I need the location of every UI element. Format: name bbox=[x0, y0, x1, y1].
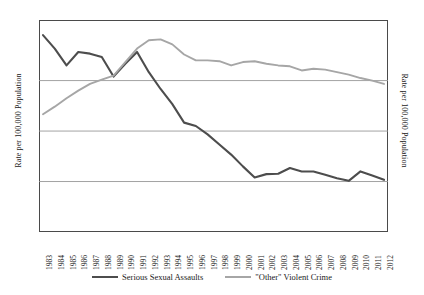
x-tick-label: 1983 bbox=[46, 255, 54, 270]
x-tick-label: 1985 bbox=[70, 255, 78, 270]
x-tick-label: 1995 bbox=[187, 255, 195, 270]
x-tick-label: 1993 bbox=[164, 255, 172, 270]
x-tick-label: 1992 bbox=[152, 255, 160, 270]
x-tick-label: 2007 bbox=[328, 255, 336, 270]
x-tick-label: 1989 bbox=[117, 255, 125, 270]
x-tick-label: 2001 bbox=[258, 255, 266, 270]
series-line-0 bbox=[43, 35, 384, 181]
x-tick-label: 1986 bbox=[81, 255, 89, 270]
x-tick-label: 2000 bbox=[246, 255, 254, 270]
x-tick-label: 1991 bbox=[140, 255, 148, 270]
x-tick-label: 1998 bbox=[222, 255, 230, 270]
legend-swatch-line-icon bbox=[225, 276, 251, 278]
x-tick-label: 1984 bbox=[58, 255, 66, 270]
x-tick-label: 2006 bbox=[316, 255, 324, 270]
x-tick-label: 1990 bbox=[128, 255, 136, 270]
x-tick-label: 2008 bbox=[340, 255, 348, 270]
legend-label: Serious Sexual Assaults bbox=[122, 272, 203, 282]
chart-legend: Serious Sexual Assaults"Other" Violent C… bbox=[0, 272, 424, 282]
plot-area bbox=[39, 20, 388, 232]
legend-entry-0[interactable]: Serious Sexual Assaults bbox=[92, 272, 203, 282]
series-paths bbox=[43, 35, 384, 181]
x-tick-label: 2003 bbox=[281, 255, 289, 270]
x-tick-label: 1999 bbox=[234, 255, 242, 270]
plot-lines bbox=[39, 20, 388, 232]
x-tick-label: 1994 bbox=[175, 255, 183, 270]
x-tick-label: 1996 bbox=[199, 255, 207, 270]
x-tick-label: 2009 bbox=[352, 255, 360, 270]
legend-label: "Other" Violent Crime bbox=[255, 272, 332, 282]
x-tick-label: 2011 bbox=[375, 255, 383, 270]
x-tick-label: 1988 bbox=[105, 255, 113, 270]
x-tick-label: 2012 bbox=[387, 255, 395, 270]
chart-figure: Rate per 100,000 Population Rate per 100… bbox=[0, 0, 424, 295]
legend-swatch-line-icon bbox=[92, 276, 118, 279]
x-tick-label: 1987 bbox=[93, 255, 101, 270]
x-tick-label: 1997 bbox=[211, 255, 219, 270]
gridlines bbox=[39, 30, 388, 181]
y-axis-title-left: Rate per 100,000 Population bbox=[14, 51, 23, 191]
x-tick-label: 2005 bbox=[305, 255, 313, 270]
x-tick-label: 2004 bbox=[293, 255, 301, 270]
x-tick-label: 2002 bbox=[269, 255, 277, 270]
y-axis-title-right: Rate per 100,000 Population bbox=[400, 51, 409, 191]
legend-entry-1[interactable]: "Other" Violent Crime bbox=[225, 272, 332, 282]
series-line-1 bbox=[43, 39, 384, 114]
x-tick-label: 2010 bbox=[363, 255, 371, 270]
